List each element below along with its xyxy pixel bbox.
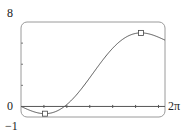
- x-min-label: 0: [7, 100, 13, 112]
- local-minimum-marker: [42, 111, 47, 116]
- function-curve: [21, 33, 165, 114]
- y-max-label: 8: [7, 7, 13, 19]
- plot-frame: [21, 22, 165, 117]
- y-min-label: −1: [5, 120, 18, 132]
- chart-plot-area: [0, 0, 187, 137]
- x-max-label: 2π: [168, 100, 180, 112]
- local-maximum-marker: [139, 30, 144, 35]
